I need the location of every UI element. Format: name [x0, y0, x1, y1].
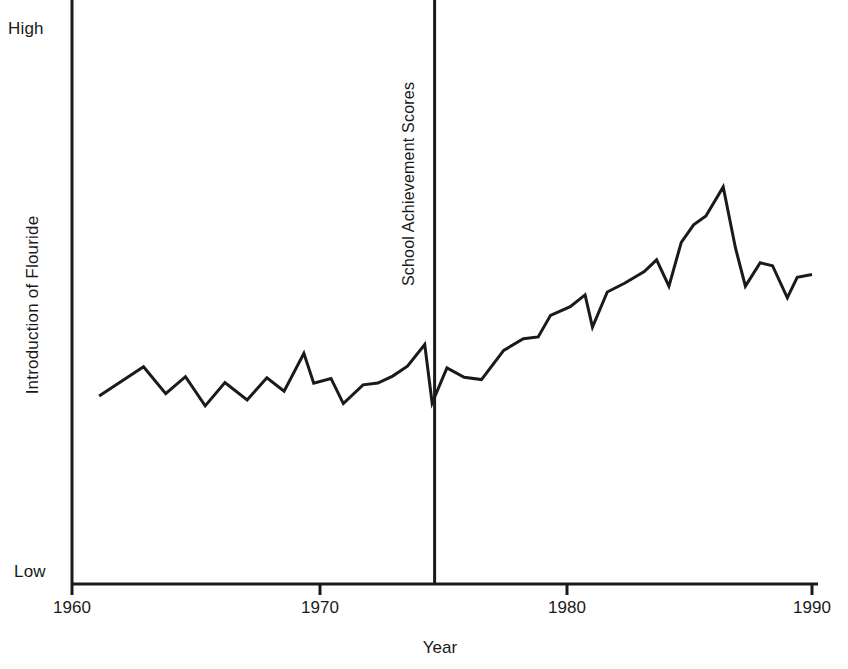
x-axis-ticks	[72, 584, 812, 595]
x-tick-label-1960: 1960	[53, 598, 91, 618]
data-series-line	[99, 187, 812, 406]
vertical-line-label-wrapper: School Achievement Scores	[400, 69, 418, 299]
y-axis-low-label: Low	[14, 562, 46, 582]
x-tick-label-1990: 1990	[793, 598, 831, 618]
vertical-reference-line-label: School Achievement Scores	[400, 82, 417, 286]
chart-figure: High Low Introduction of Flouride School…	[0, 0, 848, 669]
y-axis-high-label: High	[8, 19, 44, 39]
line-chart-canvas	[0, 0, 848, 669]
x-axis-title: Year	[0, 638, 848, 658]
y-axis-title-wrapper: Introduction of Flouride	[23, 195, 43, 415]
x-tick-label-1970: 1970	[301, 598, 339, 618]
x-tick-label-1980: 1980	[548, 598, 586, 618]
y-axis-title: Introduction of Flouride	[23, 216, 42, 395]
